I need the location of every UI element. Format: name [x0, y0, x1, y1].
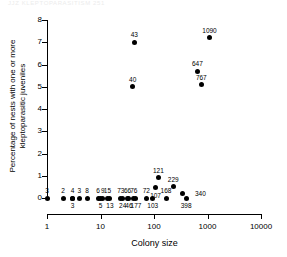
- data-point: [132, 40, 137, 45]
- y-tick-mark: [42, 87, 47, 88]
- data-point-label: 767: [186, 74, 216, 81]
- data-point: [70, 196, 75, 201]
- data-point-label: 340: [185, 190, 215, 197]
- y-tick-label: 4: [24, 105, 42, 113]
- data-point-label: 103: [138, 202, 168, 209]
- x-tick-mark: [47, 214, 48, 219]
- y-tick-mark: [42, 20, 47, 21]
- x-tick-mark: [208, 214, 209, 219]
- x-tick-label: 1: [27, 222, 67, 231]
- y-axis-line: [47, 20, 48, 198]
- x-tick-label: 1000: [188, 222, 228, 231]
- data-point: [180, 191, 185, 196]
- data-point-label: 647: [182, 60, 212, 67]
- y-tick-mark: [42, 109, 47, 110]
- data-point-label: 398: [171, 202, 201, 209]
- y-tick-label: 8: [24, 16, 42, 24]
- y-tick-mark: [42, 65, 47, 66]
- data-point-label: 229: [158, 176, 188, 183]
- data-point: [85, 196, 90, 201]
- y-tick-mark: [42, 154, 47, 155]
- y-tick-label-text: 3: [30, 127, 42, 135]
- data-point-label: 1090: [195, 27, 225, 34]
- y-tick-label: 2: [24, 150, 42, 158]
- x-tick-mark: [101, 214, 102, 219]
- y-tick-mark: [42, 131, 47, 132]
- y-tick-label: 5: [24, 83, 42, 91]
- x-tick-mark: [261, 214, 262, 219]
- data-point: [107, 196, 112, 201]
- data-point: [77, 196, 82, 201]
- y-tick-label: 3: [24, 127, 42, 135]
- x-tick-mark: [154, 214, 155, 219]
- y-tick-label-text: 5: [30, 83, 42, 91]
- data-point-label: 43: [119, 31, 149, 38]
- y-tick-label: 0: [24, 194, 42, 202]
- x-tick-label: 10000: [241, 222, 281, 231]
- data-point: [45, 196, 50, 201]
- data-point-label: 121: [143, 167, 173, 174]
- scatter-plot-figure: JJZ KLEPTOPARASITISM 251 Percentage of n…: [0, 0, 287, 257]
- x-tick-label: 10: [81, 222, 121, 231]
- y-tick-label: 6: [24, 61, 42, 69]
- data-point: [199, 82, 204, 87]
- data-point: [133, 196, 138, 201]
- y-tick-label-text: 2: [30, 150, 42, 158]
- y-tick-mark: [42, 176, 47, 177]
- y-tick-label-text: 0: [30, 194, 42, 202]
- x-axis-title: Colony size: [47, 238, 262, 248]
- y-tick-label-text: 7: [30, 38, 42, 46]
- y-tick-label: 7: [24, 38, 42, 46]
- y-tick-label-text: 6: [30, 61, 42, 69]
- y-tick-label: 1: [24, 172, 42, 180]
- x-tick-label: 100: [134, 222, 174, 231]
- data-point-label: 107: [141, 192, 171, 199]
- data-point: [61, 196, 66, 201]
- y-tick-mark: [42, 42, 47, 43]
- page-header-faint: JJZ KLEPTOPARASITISM 251: [8, 0, 105, 6]
- y-tick-label-text: 1: [30, 172, 42, 180]
- data-point-label: 3: [58, 202, 88, 209]
- y-tick-label-text: 4: [30, 105, 42, 113]
- data-point-label: 40: [118, 76, 148, 83]
- y-tick-label-text: 8: [30, 16, 42, 24]
- data-point: [130, 84, 135, 89]
- data-point: [207, 35, 212, 40]
